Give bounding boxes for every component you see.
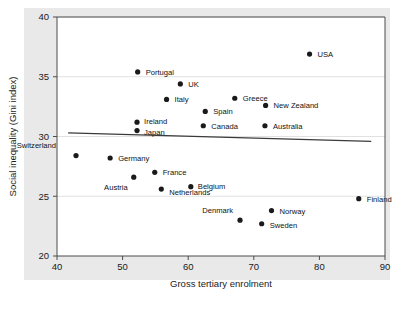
data-point-label: Japan xyxy=(144,128,165,137)
data-point-dot xyxy=(232,96,237,101)
data-point-dot xyxy=(259,221,264,226)
data-point-dot xyxy=(307,51,312,56)
data-point-label: Norway xyxy=(280,207,306,216)
data-point-label: Australia xyxy=(273,122,303,131)
data-point-dot xyxy=(203,109,208,114)
x-tick-label: 80 xyxy=(314,261,325,272)
chart-figure: 2025303540405060708090Gross tertiary enr… xyxy=(0,0,408,316)
data-point-label: Denmark xyxy=(202,206,233,215)
data-point-label: Italy xyxy=(175,95,189,104)
data-point-label: Sweden xyxy=(270,221,297,230)
x-tick-label: 40 xyxy=(52,261,63,272)
data-point-dot xyxy=(134,128,139,133)
data-point-dot xyxy=(131,175,136,180)
data-point-label: USA xyxy=(318,50,335,59)
y-tick-label: 25 xyxy=(38,191,49,202)
data-point-dot xyxy=(73,153,78,158)
y-tick-label: 35 xyxy=(38,71,49,82)
data-point-label: Spain xyxy=(213,107,232,116)
data-point-dot xyxy=(178,81,183,86)
data-point-dot xyxy=(262,123,267,128)
data-point-dot xyxy=(159,186,164,191)
data-point-dot xyxy=(108,155,113,160)
data-point-label: Greece xyxy=(243,94,268,103)
x-tick-label: 60 xyxy=(183,261,194,272)
data-point-dot xyxy=(188,184,193,189)
data-point-label: Canada xyxy=(211,122,238,131)
data-point-label: Germany xyxy=(118,154,149,163)
scatter-plot-svg: 2025303540405060708090Gross tertiary enr… xyxy=(0,0,408,316)
plot-area: 2025303540405060708090Gross tertiary enr… xyxy=(7,11,392,289)
data-point-label: UK xyxy=(188,80,199,89)
data-point-dot xyxy=(152,170,157,175)
data-point-label: Belgium xyxy=(198,182,225,191)
x-tick-label: 50 xyxy=(117,261,128,272)
x-tick-label: 70 xyxy=(249,261,260,272)
data-point-label: New Zealand xyxy=(274,101,319,110)
data-point-dot xyxy=(201,123,206,128)
data-point-dot xyxy=(263,103,268,108)
data-point-dot xyxy=(135,69,140,74)
data-point-label: Switzerland xyxy=(17,141,56,150)
y-axis-title: Social inequality (Gini index) xyxy=(7,77,18,197)
x-axis-title: Gross tertiary enrolment xyxy=(170,278,272,289)
data-point-label: France xyxy=(163,168,187,177)
data-point-dot xyxy=(269,208,274,213)
y-tick-label: 40 xyxy=(38,11,49,22)
data-point-label: Austria xyxy=(104,183,128,192)
data-point-label: Portugal xyxy=(146,68,175,77)
y-tick-label: 20 xyxy=(38,250,49,261)
data-point-label: Ireland xyxy=(144,117,167,126)
x-tick-label: 90 xyxy=(380,261,391,272)
data-point-label: Finland xyxy=(367,195,392,204)
data-point-dot xyxy=(237,218,242,223)
data-point-dot xyxy=(134,120,139,125)
data-point-dot xyxy=(164,97,169,102)
data-point-dot xyxy=(356,196,361,201)
